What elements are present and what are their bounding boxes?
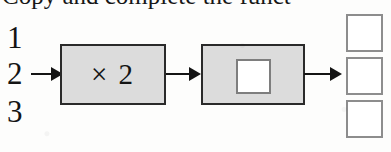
arrow-shaft [166,73,191,75]
input-value-3: 3 [7,96,33,127]
output-answer-box-2[interactable] [346,57,383,95]
arrow-shaft [304,73,332,75]
arrow-machine-1-to-machine-2 [166,66,202,82]
input-value-1: 1 [7,22,33,53]
worksheet-page: Copy and complete the funct 1 2 3 × 2 [0,0,391,152]
input-value-2: 2 [7,58,33,89]
function-machine-1-label: × 2 [62,58,164,91]
arrow-head-icon [189,67,201,81]
function-machine-1: × 2 [60,44,166,105]
arrow-shaft [31,73,53,75]
worksheet-heading: Copy and complete the funct [2,0,291,8]
output-answer-box-1[interactable] [346,14,383,52]
arrow-head-icon [330,67,342,81]
function-machine-2 [201,44,305,105]
function-machine-2-blank-field[interactable] [236,59,271,94]
output-answer-box-3[interactable] [346,100,383,138]
arrow-input-to-machine-1 [31,66,63,82]
arrow-machine-2-to-output [304,66,344,82]
worksheet-heading-clip: Copy and complete the funct [0,0,391,13]
